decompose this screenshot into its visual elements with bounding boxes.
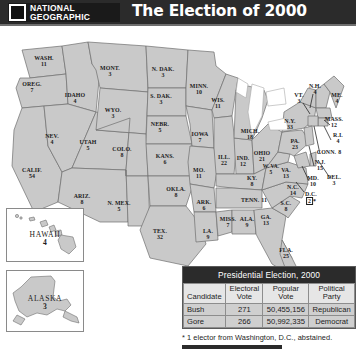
table-body: Bush 271 50,455,156 Republican Gore 266 … [184,303,355,327]
state-shape-ndak [146,46,188,88]
state-shape-mo [188,146,218,188]
footer-bar [182,345,282,349]
table-head: Candidate Electoral Vote Popular Vote Po… [184,283,355,303]
cell-party-bush: Republican [309,303,355,315]
table-row: Bush 271 50,455,156 Republican [184,303,355,315]
state-shape-kans [146,144,192,176]
results-table: Candidate Electoral Vote Popular Vote Po… [183,283,355,328]
state-shape-ill [214,116,236,174]
alaska-label: ALASKA 3 [7,295,83,312]
cell-candidate-gore: Gore [184,315,226,327]
cell-popular-gore: 50,992,335 [263,315,309,327]
election-results-table: Presidential Election, 2000 Candidate El… [182,266,356,329]
state-shape-nebr [146,116,192,144]
national-geographic-rectangle-logo-icon [9,4,26,21]
column-header-popular-vote: Popular Vote [263,283,309,303]
page-header: NATIONAL GEOGRAPHIC The Election of 2000 [0,0,356,24]
page-title: The Election of 2000 [132,2,307,20]
table-row: Gore 266 50,992,335 Democrat [184,315,355,327]
alaska-votes: 3 [7,303,83,311]
cell-popular-bush: 50,455,156 [263,303,309,315]
state-shape-la [194,212,218,242]
cell-electoral-bush: 271 [226,303,263,315]
table-header-row: Candidate Electoral Vote Popular Vote Po… [184,283,355,303]
state-shape-miss [216,210,232,236]
column-header-candidate: Candidate [184,283,226,303]
state-shape-wash [22,46,66,78]
hawaii-inset: HAWAII 4 [6,208,84,262]
column-header-electoral-vote: Electoral Vote [226,283,263,303]
state-shape-ind [234,138,254,174]
state-shape-mass [316,108,332,118]
logo-wordmark: NATIONAL GEOGRAPHIC [30,4,90,21]
national-geographic-logo: NATIONAL GEOGRAPHIC [8,3,120,22]
column-header-political-party: Political Party [309,283,355,303]
hawaii-label: HAWAII 4 [7,231,83,248]
lake-huron-erie [266,88,286,106]
state-shape-sdak [147,88,186,116]
state-shape-tenn [216,188,262,208]
state-shape-ala [232,210,256,234]
hawaii-votes: 4 [7,239,83,247]
lake-erie [268,118,288,130]
state-shape-nj [304,126,314,146]
state-shape-okla [148,176,192,206]
state-shape-ark [190,184,216,212]
state-shape-conn [308,116,318,126]
cell-party-gore: Democrat [309,315,355,327]
state-shape-oreg [16,74,68,108]
election-map-page: NATIONAL GEOGRAPHIC The Election of 2000 [0,0,356,350]
table-footnote: * 1 elector from Washington, D.C., absta… [182,333,356,342]
alaska-inset: ALASKA 3 [6,270,84,332]
cell-candidate-bush: Bush [184,303,226,315]
logo-line-2: GEOGRAPHIC [30,13,90,21]
cell-electoral-gore: 266 [226,315,263,327]
table-title: Presidential Election, 2000 [183,267,355,283]
